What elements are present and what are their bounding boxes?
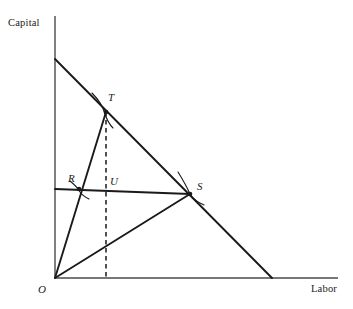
isoquant-isocost-diagram: Capital Labor O R T U S [0,0,353,309]
point-marker-S [188,192,193,197]
origin-label: O [38,283,46,295]
point-label-s: S [197,180,203,192]
expansion-path-ray-shallow [55,194,190,278]
constant-capital-line [55,189,190,194]
point-label-u: U [110,175,118,187]
diagram-canvas [0,0,353,309]
isocost-line-upper [55,59,272,278]
point-marker-T [104,110,109,115]
labor-axis-label: Labor [311,283,337,294]
expansion-path-ray-steep [55,112,106,278]
capital-axis-label: Capital [8,17,40,28]
point-label-r: R [68,172,75,184]
point-label-t: T [108,91,114,103]
point-marker-R [77,187,82,192]
